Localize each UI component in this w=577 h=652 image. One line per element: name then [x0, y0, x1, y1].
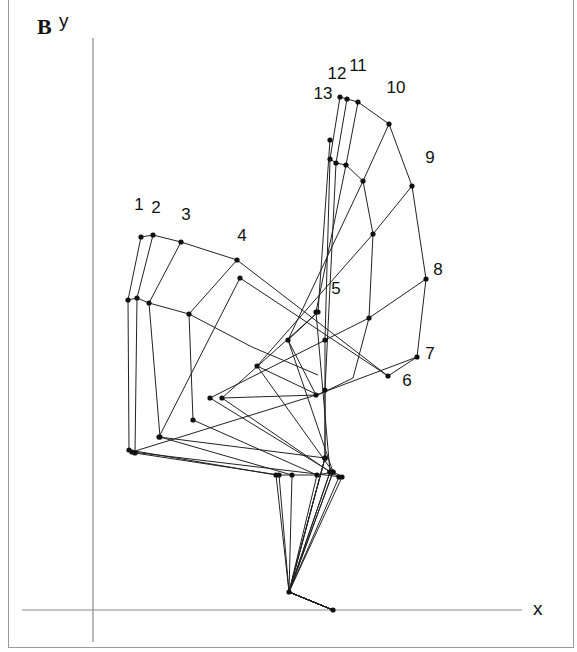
- joint-dot: [134, 295, 139, 300]
- frame-number-label: 8: [433, 260, 442, 280]
- joint-dot: [322, 455, 327, 460]
- joint-dot: [314, 472, 319, 477]
- joint-dot: [289, 472, 294, 477]
- limb-segment: [135, 298, 137, 453]
- connecting-segment: [149, 303, 189, 314]
- joint-dot: [414, 354, 419, 359]
- joint-dot: [234, 257, 239, 262]
- joint-dot: [366, 315, 371, 320]
- limb-segment: [289, 475, 292, 592]
- connecting-segment: [181, 242, 237, 260]
- frame-number-label: 7: [425, 344, 434, 364]
- limb-segment: [210, 318, 369, 398]
- limb-segment: [189, 314, 193, 420]
- limb-segment: [222, 398, 330, 472]
- joint-dot: [360, 178, 365, 183]
- limb-segment: [149, 242, 181, 303]
- frame-number-label: 9: [425, 148, 434, 168]
- joint-dot: [254, 363, 259, 368]
- joint-dot: [207, 395, 212, 400]
- joint-dot: [322, 387, 327, 392]
- frame-number-label: 6: [402, 371, 411, 391]
- joint-dot: [178, 239, 183, 244]
- limb-segment: [289, 472, 330, 592]
- connecting-segment: [288, 340, 316, 395]
- joint-dot: [138, 234, 143, 239]
- joint-dot: [330, 607, 335, 612]
- joint-dot: [336, 474, 341, 479]
- leg-stick-diagram: [0, 0, 577, 652]
- connecting-segment: [389, 124, 412, 186]
- joint-dot: [343, 162, 348, 167]
- connecting-segment: [358, 102, 389, 124]
- joint-dot: [370, 231, 375, 236]
- frame-number-label: 11: [349, 56, 367, 76]
- joint-dot: [150, 232, 155, 237]
- joint-dot: [285, 337, 290, 342]
- connecting-segment: [363, 181, 373, 234]
- frame-number-label: 5: [331, 279, 340, 299]
- connecting-segment: [237, 260, 388, 376]
- joint-dot: [286, 589, 291, 594]
- limb-segment: [257, 366, 333, 472]
- joint-dot: [313, 392, 318, 397]
- joint-dot: [386, 121, 391, 126]
- joint-dot: [146, 300, 151, 305]
- limb-segment: [346, 102, 358, 165]
- frame-number-label: 2: [151, 198, 160, 218]
- connecting-segment: [412, 186, 426, 279]
- joint-dot: [276, 472, 281, 477]
- connecting-segment: [346, 165, 363, 181]
- joint-dot: [337, 94, 342, 99]
- limb-segment: [257, 234, 373, 366]
- limb-segment: [369, 279, 426, 318]
- connecting-segment: [369, 234, 373, 318]
- joint-dot: [344, 96, 349, 101]
- joint-dot: [125, 297, 130, 302]
- joint-dot: [190, 417, 195, 422]
- joint-dot: [327, 156, 332, 161]
- frame-number-label: 10: [387, 78, 406, 98]
- limb-segment: [373, 186, 412, 234]
- limb-segment: [240, 278, 388, 376]
- limb-segment: [135, 453, 279, 475]
- frame-number-label: 12: [328, 64, 347, 84]
- joint-dot: [186, 311, 191, 316]
- connecting-segment: [153, 235, 181, 242]
- joint-dot: [322, 337, 327, 342]
- joint-dot: [409, 183, 414, 188]
- x-axis-label: x: [533, 598, 543, 620]
- y-axis-label: y: [59, 10, 69, 32]
- joint-dot: [313, 309, 318, 314]
- frame-number-label: 4: [237, 226, 246, 246]
- limb-segment: [289, 477, 339, 592]
- limb-segment: [210, 398, 339, 477]
- frame-number-label: 1: [134, 195, 143, 215]
- connecting-segment: [222, 395, 317, 398]
- limb-segment: [189, 260, 237, 314]
- limb-segment: [363, 124, 389, 181]
- joint-dot: [355, 99, 360, 104]
- joint-dot: [423, 276, 428, 281]
- joint-dot: [327, 137, 332, 142]
- connecting-segment: [189, 314, 252, 347]
- joint-dot: [385, 373, 390, 378]
- limb-segment: [160, 437, 292, 475]
- frame-number-label: 13: [314, 84, 333, 104]
- limb-segment: [128, 300, 129, 450]
- joint-dot: [237, 275, 242, 280]
- joint-dot: [327, 469, 332, 474]
- limb-segment: [149, 303, 160, 437]
- connecting-segment: [353, 318, 369, 378]
- joint-dot: [333, 160, 338, 165]
- panel-label: B: [37, 14, 52, 40]
- limb-segment: [159, 437, 325, 458]
- joint-dot: [219, 395, 224, 400]
- limb-segment: [279, 475, 289, 592]
- limb-segment: [289, 592, 333, 610]
- frame-number-label: 3: [181, 205, 190, 225]
- joint-dot: [129, 449, 134, 454]
- connecting-segment: [318, 378, 353, 395]
- joint-dot: [156, 434, 161, 439]
